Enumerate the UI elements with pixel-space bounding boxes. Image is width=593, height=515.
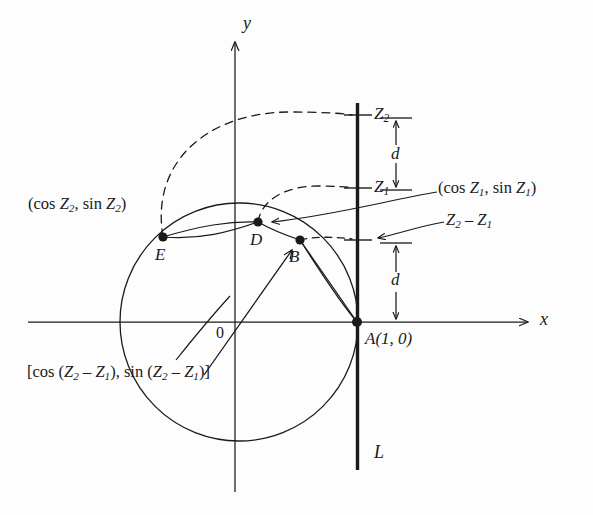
annotation-cos-difference: [cos (Z2 – Z1), sin (Z2 – Z1)] [27,364,210,382]
x-axis-label: x [540,310,548,328]
point-B-marker [295,235,304,244]
y-axis-label: y [243,14,251,32]
point-E-label: E [155,246,165,263]
point-B-label: B [289,248,299,265]
point-A-label: A(1, 0) [365,330,412,347]
line-mark-z2-label: Z2 [374,105,389,125]
annotation-cos-z2: (cos Z2, sin Z2) [28,196,126,214]
dimension-d-lower-label: d [391,271,400,288]
chord-e-d-sweep [163,222,258,238]
line-L-label: L [374,443,384,461]
point-D-marker [253,217,262,226]
curve-d-to-b [258,222,300,240]
point-D-label: D [250,231,262,248]
origin-label: 0 [216,325,224,341]
unit-circle-wrapping-figure: y x 0 A(1, 0) B D E Z2 Z1 d d L (cos Z2,… [0,0,593,515]
radius-arrow-to-b [204,250,292,375]
annotation-cos-z1: (cos Z1, sin Z1) [438,180,536,198]
dashed-arc-to-z1 [258,186,353,222]
line-mark-z1-label: Z1 [374,178,389,198]
point-A-marker [352,317,362,327]
point-E-marker [158,232,167,241]
chord-b-to-a [300,240,357,322]
dimension-d-upper-label: d [391,145,400,162]
leader-z2-minus-z1 [378,222,444,238]
annotation-z2-minus-z1: Z2 – Z1 [446,212,492,230]
